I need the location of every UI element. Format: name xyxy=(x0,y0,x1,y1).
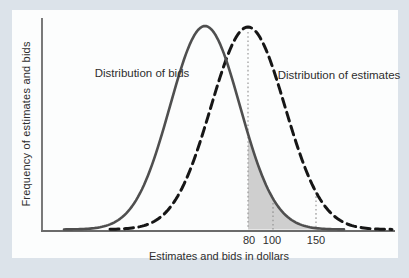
chart-canvas xyxy=(0,0,409,278)
bids-curve-label: Distribution of bids xyxy=(95,67,190,79)
y-axis-title: Frequency of estimates and bids xyxy=(20,41,32,206)
x-tick-150: 150 xyxy=(307,234,325,246)
shaded-area xyxy=(248,134,344,230)
estimates-curve-label: Distribution of estimates xyxy=(278,69,401,81)
x-axis-title: Estimates and bids in dollars xyxy=(149,250,289,262)
x-tick-80: 80 xyxy=(243,234,255,246)
x-tick-100: 100 xyxy=(263,234,281,246)
figure-panel: Frequency of estimates and bids Estimate… xyxy=(0,0,409,278)
